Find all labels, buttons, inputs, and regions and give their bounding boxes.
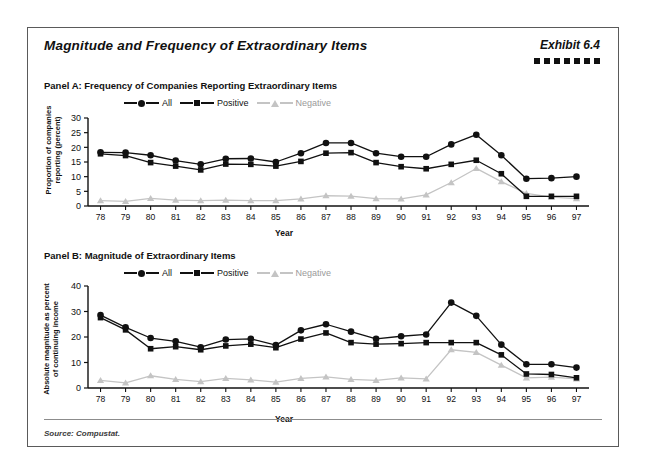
x-tick-label: 85: [271, 394, 281, 404]
data-point-negative: [97, 377, 104, 383]
panel-a-plot: 0510152025307879808182838485868788899091…: [44, 94, 604, 229]
y-tick-label: 30: [71, 307, 81, 317]
data-point-all: [473, 131, 480, 138]
x-tick-label: 94: [497, 212, 507, 222]
data-point-positive: [373, 341, 379, 347]
x-tick-label: 92: [446, 212, 456, 222]
x-tick-label: 96: [547, 212, 557, 222]
panel-b-title: Panel B: Magnitude of Extraordinary Item…: [44, 250, 236, 261]
panel-b-plot: 0102030407879808182838485868788899091929…: [44, 264, 604, 414]
data-point-positive: [423, 340, 429, 346]
panel-a-chart-svg: 0510152025307879808182838485868788899091…: [44, 94, 604, 229]
exhibit-dot-icon: [534, 58, 540, 64]
data-point-positive: [423, 166, 429, 172]
data-point-positive: [373, 160, 379, 166]
data-point-all: [323, 140, 330, 147]
data-point-all: [348, 328, 355, 335]
y-tick-label: 10: [71, 358, 81, 368]
data-point-positive: [348, 150, 354, 156]
y-tick-label: 25: [71, 128, 81, 138]
y-tick-label: 5: [76, 187, 81, 197]
data-point-positive: [524, 194, 530, 200]
y-tick-label: 30: [71, 113, 81, 123]
x-tick-label: 95: [522, 394, 532, 404]
x-tick-label: 92: [446, 394, 456, 404]
data-point-positive: [148, 346, 154, 352]
data-point-negative: [498, 362, 505, 368]
data-point-all: [423, 153, 430, 160]
x-tick-label: 87: [321, 212, 331, 222]
exhibit-dot-decoration: [534, 58, 600, 64]
data-point-positive: [248, 341, 254, 347]
data-point-negative: [147, 372, 154, 378]
data-point-all: [222, 155, 229, 162]
data-point-positive: [473, 340, 479, 346]
exhibit-dot-icon: [554, 58, 560, 64]
x-tick-label: 88: [346, 394, 356, 404]
x-tick-label: 79: [121, 212, 131, 222]
data-point-all: [473, 313, 480, 320]
x-tick-label: 78: [96, 212, 106, 222]
x-tick-label: 96: [547, 394, 557, 404]
data-point-all: [172, 338, 179, 345]
x-tick-label: 81: [171, 394, 181, 404]
data-point-positive: [148, 160, 154, 166]
panel-a-x-axis-label: Year: [44, 228, 524, 238]
x-tick-label: 97: [572, 394, 582, 404]
x-tick-label: 86: [296, 394, 306, 404]
x-tick-label: 90: [396, 394, 406, 404]
data-point-negative: [423, 191, 430, 197]
data-point-all: [548, 175, 555, 182]
data-point-all: [373, 335, 380, 342]
data-point-all: [197, 161, 204, 168]
data-point-all: [348, 140, 355, 147]
x-tick-label: 84: [246, 212, 256, 222]
x-tick-label: 83: [221, 212, 231, 222]
y-tick-label: 40: [71, 281, 81, 291]
data-point-all: [398, 153, 405, 160]
x-tick-label: 85: [271, 212, 281, 222]
x-tick-label: 93: [471, 394, 481, 404]
x-tick-label: 82: [196, 212, 206, 222]
data-point-positive: [173, 163, 179, 169]
panel-a-title: Panel A: Frequency of Companies Reportin…: [44, 80, 337, 91]
series-line-all: [101, 135, 577, 179]
exhibit-dot-icon: [574, 58, 580, 64]
data-point-all: [548, 361, 555, 368]
exhibit-dot-icon: [564, 58, 570, 64]
data-point-all: [373, 150, 380, 157]
data-point-positive: [448, 162, 454, 168]
data-point-all: [172, 157, 179, 164]
data-point-all: [248, 155, 255, 162]
data-point-positive: [499, 171, 505, 177]
y-tick-label: 20: [71, 332, 81, 342]
x-tick-label: 82: [196, 394, 206, 404]
data-point-positive: [98, 151, 104, 157]
x-tick-label: 79: [121, 394, 131, 404]
data-point-all: [222, 336, 229, 343]
x-tick-label: 89: [371, 212, 381, 222]
data-point-all: [523, 175, 530, 182]
exhibit-dot-icon: [594, 58, 600, 64]
x-tick-label: 87: [321, 394, 331, 404]
data-point-all: [498, 152, 505, 159]
data-point-all: [298, 150, 305, 157]
x-tick-label: 80: [146, 212, 156, 222]
data-point-positive: [574, 375, 580, 381]
y-tick-label: 0: [76, 383, 81, 393]
x-tick-label: 89: [371, 394, 381, 404]
series-line-negative: [101, 350, 577, 383]
data-point-negative: [498, 178, 505, 184]
data-point-all: [448, 141, 455, 148]
x-tick-label: 97: [572, 212, 582, 222]
data-point-positive: [123, 327, 129, 333]
data-point-positive: [398, 164, 404, 170]
data-point-positive: [248, 162, 254, 168]
data-point-positive: [323, 330, 329, 336]
x-tick-label: 91: [421, 212, 431, 222]
data-point-all: [498, 341, 505, 348]
data-point-all: [423, 331, 430, 338]
data-point-positive: [198, 167, 204, 173]
data-point-all: [448, 299, 455, 306]
data-point-positive: [473, 157, 479, 163]
